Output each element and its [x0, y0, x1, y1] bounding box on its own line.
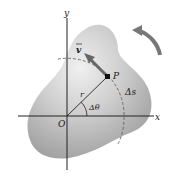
origin-label: O: [58, 119, 66, 129]
rotation-arrowhead-icon: [132, 25, 142, 36]
rotation-direction-arrow: [140, 31, 160, 55]
point-label: P: [112, 71, 120, 81]
arc-length-label: Δs: [124, 87, 136, 97]
rigid-body-rotation-diagram: y x O P v r Δθ Δs: [0, 0, 172, 177]
x-axis-label: x: [155, 112, 160, 122]
angle-label: Δθ: [88, 103, 100, 112]
y-axis-label: y: [63, 8, 70, 18]
point-p-marker: [105, 74, 110, 79]
velocity-label: v: [76, 45, 82, 55]
